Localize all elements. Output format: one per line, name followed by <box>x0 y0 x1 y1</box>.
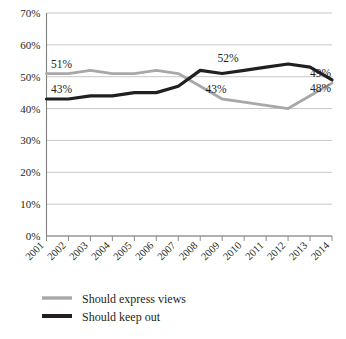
data-point-label: 43% <box>205 83 227 95</box>
legend-label: Should keep out <box>82 310 161 324</box>
legend-label: Should express views <box>82 292 186 306</box>
y-axis-tick-label: 40% <box>20 103 40 115</box>
y-axis-tick-label: 50% <box>20 71 40 83</box>
y-axis-tick-label: 60% <box>20 39 40 51</box>
y-axis-tick-label: 20% <box>20 166 40 178</box>
chart-canvas: 0%10%20%30%40%50%60%70% 2001200220032004… <box>0 0 346 339</box>
chart-background <box>0 0 346 339</box>
data-point-label: 49% <box>310 67 332 79</box>
line-chart: 0%10%20%30%40%50%60%70% 2001200220032004… <box>0 0 346 339</box>
data-point-label: 43% <box>51 83 73 95</box>
data-point-label: 51% <box>51 58 73 70</box>
data-point-label: 48% <box>310 82 332 94</box>
data-point-label: 52% <box>217 52 239 64</box>
y-axis-tick-label: 30% <box>20 134 40 146</box>
y-axis-tick-label: 70% <box>20 7 40 19</box>
y-axis-tick-label: 10% <box>20 198 40 210</box>
